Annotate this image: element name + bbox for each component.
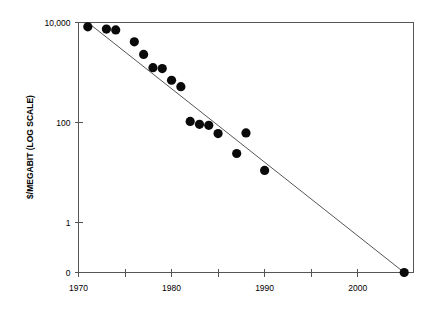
y-tick-label: 1 [66,218,71,228]
data-point [213,129,222,138]
data-point [195,120,204,129]
data-point [176,82,185,91]
data-point [186,117,195,126]
price-per-megabit-chart: 10,000100101970198019902000$/MEGABIT (LO… [0,0,429,310]
data-point [102,24,111,33]
chart-canvas: 10,000100101970198019902000$/MEGABIT (LO… [0,0,429,310]
data-point [167,76,176,85]
data-point [139,50,148,59]
y-axis-label: $/MEGABIT (LOG SCALE) [25,95,35,199]
data-point [83,22,92,31]
data-point [260,166,269,175]
y-tick-label: 10,000 [45,18,71,28]
data-point [158,64,167,73]
x-tick-label: 2000 [348,283,367,293]
data-point [148,63,157,72]
y-tick-label: 100 [56,118,70,128]
y-tick-label: 0 [66,268,71,278]
data-point [241,128,250,137]
x-tick-label: 1970 [69,283,88,293]
data-point [232,149,241,158]
trend-line [88,23,404,273]
x-tick-label: 1980 [162,283,181,293]
data-point [130,37,139,46]
data-point [111,25,120,34]
data-point [400,268,409,277]
data-point [204,121,213,130]
x-tick-label: 1990 [255,283,274,293]
